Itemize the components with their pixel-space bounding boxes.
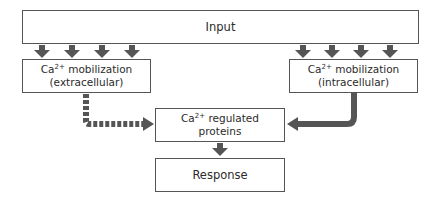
- down-arrow-icon: [382, 45, 398, 58]
- down-arrow-icon: [34, 45, 50, 58]
- down-arrow-icon: [295, 45, 311, 58]
- down-arrow-icon: [124, 45, 140, 58]
- down-arrow-icon: [324, 45, 340, 58]
- down-arrow-icon: [212, 143, 228, 156]
- down-arrow-icon: [94, 45, 110, 58]
- down-arrow-icon: [353, 45, 369, 58]
- dashed-arrow-icon: [86, 94, 154, 131]
- arrows-layer: [0, 0, 440, 199]
- down-arrow-icon: [64, 45, 80, 58]
- curved-arrow-icon: [287, 93, 354, 131]
